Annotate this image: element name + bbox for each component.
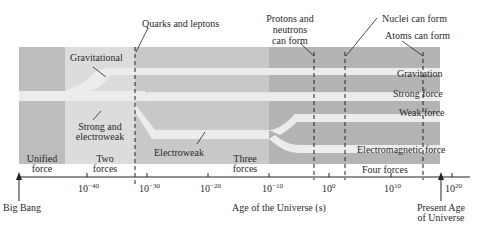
era-unified-bg [19, 47, 65, 164]
era-two-label-2: forces [70, 163, 140, 174]
tick-1e-40: 10−40 [78, 182, 99, 194]
era-unified-label-2: force [19, 163, 65, 174]
electroweak-label: Electroweak [154, 147, 204, 158]
nuclei-label: Nuclei can form [382, 13, 447, 24]
band-unified [19, 91, 65, 101]
strong-electroweak-label-2: electroweak [65, 131, 135, 142]
protons-label-2: neutrons [250, 24, 330, 35]
tick-1e-10: 10−10 [262, 182, 283, 194]
weak-force-label: Weak force [399, 107, 445, 118]
gravitational-label: Gravitational [70, 52, 123, 63]
tick-1e20: 1020 [445, 182, 462, 194]
big-bang-label: Big Bang [3, 202, 41, 213]
atoms-label: Atoms can form [385, 30, 450, 41]
era-four-label: Four forces [362, 164, 408, 175]
tick-1e-30: 10−30 [139, 182, 160, 194]
protons-label-3: can form [250, 35, 330, 46]
era-three-label-2: forces [222, 163, 268, 174]
strong-force-label: Strong force [393, 88, 443, 99]
tick-1e-20: 10−20 [200, 182, 221, 194]
gravitation-label: Gravitation [397, 68, 443, 79]
band-two-forces [65, 91, 145, 101]
electromagnetic-label: Electromagnetic force [357, 144, 446, 155]
era-two-forces-bg [65, 47, 135, 164]
quarks-leptons-label: Quarks and leptons [142, 18, 219, 29]
axis-title: Age of the Universe (s) [232, 202, 326, 213]
tick-1e0: 100 [322, 182, 336, 194]
protons-label-1: Protons and [250, 13, 330, 24]
present-age-label-2: of Universe [410, 212, 472, 223]
tick-1e10: 1010 [384, 182, 401, 194]
